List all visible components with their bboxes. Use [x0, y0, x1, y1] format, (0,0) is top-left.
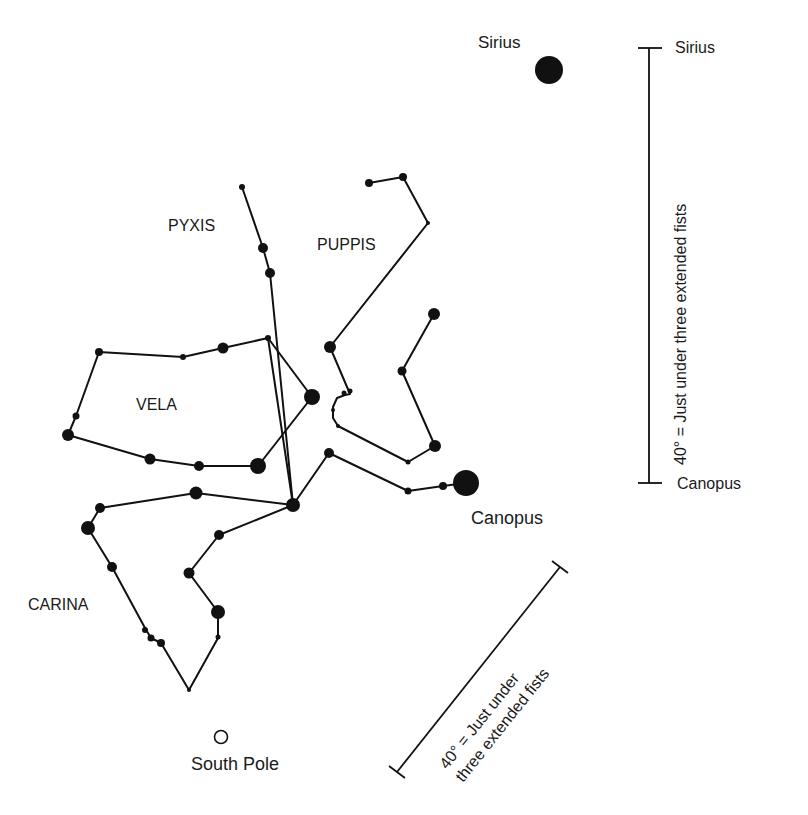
line-puppis-south	[293, 453, 466, 505]
south-pole-label: South Pole	[191, 754, 279, 774]
south-pole-marker-icon	[215, 731, 228, 744]
star-icon	[426, 221, 430, 225]
star-icon	[62, 429, 74, 441]
sirius-star-icon	[535, 56, 563, 84]
star-icon	[239, 184, 245, 190]
star-icon	[145, 454, 156, 465]
star-icon	[398, 367, 407, 376]
scale-bottom-label: Canopus	[677, 475, 741, 492]
star-icon	[365, 179, 373, 187]
star-icon	[73, 413, 80, 420]
canopus-star-icon	[453, 470, 479, 496]
star-icon	[258, 243, 268, 253]
line-vela-cross	[268, 338, 293, 505]
constellation-stars	[62, 173, 447, 692]
sirius-label: Sirius	[478, 33, 521, 52]
line-hub-west	[88, 493, 293, 528]
star-icon	[190, 487, 203, 500]
carina-label: CARINA	[28, 596, 89, 613]
star-icon	[265, 268, 275, 278]
scale-top-label: Sirius	[675, 39, 715, 56]
star-icon	[250, 458, 266, 474]
star-icon	[218, 343, 229, 354]
star-icon	[95, 348, 103, 356]
star-chart-canvas: Sirius Canopus South Pole PYXIS PUPPIS V…	[0, 0, 808, 815]
star-chart: Sirius Canopus South Pole PYXIS PUPPIS V…	[0, 0, 808, 815]
star-icon	[180, 354, 186, 360]
star-icon	[342, 391, 347, 396]
star-icon	[187, 688, 191, 692]
line-carina-east	[189, 505, 293, 690]
constellation-lines	[68, 177, 466, 690]
star-icon	[142, 627, 148, 633]
star-icon	[214, 530, 224, 540]
star-icon	[148, 635, 155, 642]
puppis-label: PUPPIS	[317, 236, 376, 253]
star-icon	[184, 568, 195, 579]
star-icon	[304, 389, 320, 405]
star-icon	[95, 503, 105, 513]
vertical-scale-caption: 40° = Just under three extended fists	[672, 204, 689, 465]
star-icon	[324, 341, 336, 353]
line-puppis-north	[330, 177, 435, 462]
star-icon	[81, 521, 95, 535]
star-icon	[265, 335, 271, 341]
vertical-scale-bar	[638, 48, 662, 483]
star-icon	[348, 389, 353, 394]
canopus-label: Canopus	[471, 508, 543, 528]
star-icon	[336, 424, 340, 428]
star-icon	[324, 448, 334, 458]
star-icon	[107, 562, 117, 572]
star-icon	[194, 461, 204, 471]
star-icon	[399, 173, 407, 181]
star-icon	[157, 639, 165, 647]
hub-star-icon	[286, 498, 300, 512]
vela-label: VELA	[136, 396, 177, 413]
star-icon	[331, 408, 335, 412]
line-vela	[68, 338, 312, 466]
star-icon	[211, 605, 225, 619]
star-icon	[216, 635, 221, 640]
star-icon	[428, 308, 440, 320]
star-icon	[405, 488, 412, 495]
line-carina-west	[88, 528, 189, 690]
star-icon	[406, 460, 411, 465]
star-icon	[439, 482, 447, 490]
star-icon	[429, 440, 441, 452]
pyxis-label: PYXIS	[168, 217, 215, 234]
